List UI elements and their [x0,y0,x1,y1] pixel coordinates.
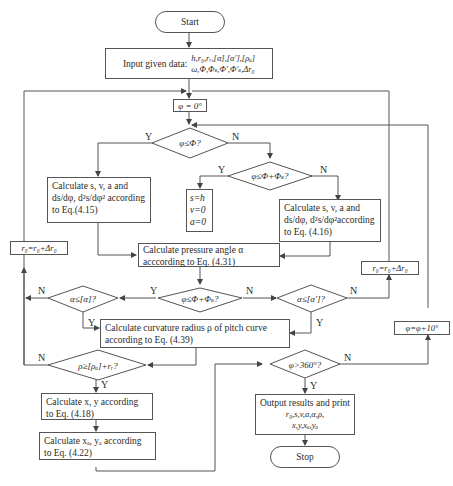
yes-label-d1: Y [145,131,152,142]
decision-alpha-le-alpha-prime-label: α≤[α′]? [297,294,325,304]
calc-rise-box: Calculate s, v, a and ds/dφ, d²s/dφ² acc… [47,177,151,223]
calc-return-line1: Calculate s, v, a and [284,202,376,214]
no-label-d2: N [320,164,327,175]
calc-return-line2: ds/dφ, d²s/dφ²according [284,214,376,226]
output-line3: x,y,xₐ,yₐ [258,420,352,431]
phi-increment-label: φ=φ+10° [406,322,439,334]
decision-phi-le-Phi-label: φ≤Φ? [179,138,200,148]
calc-pressure-line1: Calculate pressure angle α [143,244,275,256]
stop-label: Stop [296,451,313,463]
calc-return-line3: to Eq. (4.16) [284,226,376,238]
start-terminal: Start [155,11,225,33]
init-phi-box: φ = 0° [173,99,207,112]
r0-update-right-box: r₀=r₀+Δr₀ [361,261,419,275]
r0-update-right-label: r₀=r₀+Δr₀ [372,262,407,274]
decision-alpha-le-alpha-label: α≤[α]? [70,294,96,304]
no-label-360: N [344,352,351,363]
calc-rise-line3: to Eq.(4.15) [52,204,146,216]
decision-phi-gt-360-label: φ>360°? [289,360,322,370]
start-label: Start [181,16,199,28]
calc-xy-box: Calculate x, y according to Eq. (4.18) [41,393,153,420]
calc-rise-line1: Calculate s, v, a and [52,180,146,192]
input-params-line2: ω,Φ,Φₛ,Φ′,Φ′ₛ,Δr₀ [191,64,255,75]
input-params-line1: h,r₀,rᵣ,[α],[α′],[ρₐ] [191,53,255,64]
calc-curvature-line1: Calculate curvature radius ρ of pitch cu… [105,322,285,334]
decision-rho-label: ρ≥[ρₐ]+rᵣ? [78,361,118,371]
output-box: Output results and print r₀,s,v,a,α,ρ, x… [255,394,355,435]
yes-label-d2: Y [218,164,225,175]
dwell-line3: a=0 [190,216,209,228]
calc-xa-ya-box: Calculate xₐ, yₐ according to Eq. (4.22) [39,432,156,460]
calc-xa-ya-line1: Calculate xₐ, yₐ according [44,435,151,447]
calc-return-box: Calculate s, v, a and ds/dφ, d²s/dφ²acco… [279,199,381,242]
calc-pressure-line2: acccording to Eq. (4.31) [143,256,275,268]
calc-pressure-box: Calculate pressure angle α acccording to… [138,243,280,267]
calc-xy-line1: Calculate x, y according [46,396,148,408]
yes-label-rho: Y [101,379,108,390]
input-data-box: Input given data: h,r₀,rᵣ,[α],[α′],[ρₐ] … [105,48,273,79]
calc-curvature-box: Calculate curvature radius ρ of pitch cu… [100,319,290,348]
init-phi-label: φ = 0° [178,100,202,112]
r0-update-left-label: r₀=r₀+Δr₀ [21,242,56,254]
r0-update-left-box: r₀=r₀+Δr₀ [10,241,68,255]
decision-phi-le-Phi-Phis-label: φ≤Φ+Φₛ? [251,171,288,181]
output-line1: Output results and print [258,397,352,409]
dwell-line2: v=0 [190,204,209,216]
dwell-box: s=h v=0 a=0 [186,189,213,232]
no-label-rho: N [38,352,45,363]
calc-curvature-line2: according to Eq. (4.39) [105,334,285,346]
dwell-line1: s=h [190,192,209,204]
phi-increment-box: φ=φ+10° [394,321,450,335]
input-label: Input given data: [123,58,187,70]
no-label-alpha-prime: N [350,285,357,296]
output-line2: r₀,s,v,a,α,ρ, [258,409,352,420]
calc-xa-ya-line2: to Eq. (4.22) [44,447,151,459]
stop-terminal: Stop [270,446,340,468]
yes-label-d3: Y [150,285,157,296]
no-label-alpha: N [38,285,45,296]
no-label-d1: N [232,131,239,142]
yes-label-alpha: Y [88,317,95,328]
calc-rise-line2: ds/dφ, d²s/dφ² according [52,192,146,204]
no-label-d3: N [246,285,253,296]
yes-label-360: Y [310,380,317,391]
calc-xy-line2: to Eq. (4.18) [46,408,148,420]
decision-phi-le-Phi-Phis-2-label: φ≤Φ+Φₛ? [181,294,218,304]
yes-label-alpha-prime: Y [316,317,323,328]
